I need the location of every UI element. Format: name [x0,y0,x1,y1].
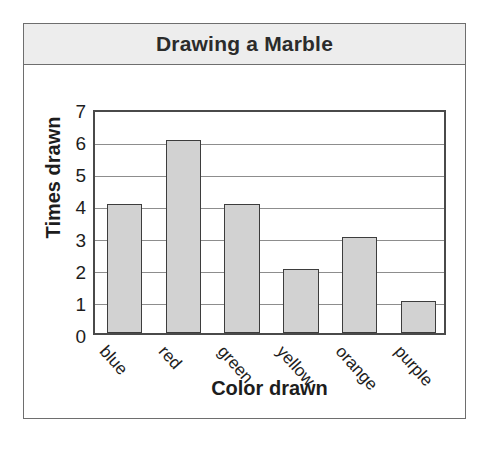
y-tick-label: 3 [75,230,86,252]
bar-orange [342,237,377,333]
y-tick-label: 4 [75,197,86,219]
chart-body: Times drawn 76543210blueredgreenyellowor… [24,65,465,420]
x-tick-label-red: red [154,342,185,374]
x-tick-label-blue: blue [96,342,132,379]
bar-red [166,140,201,333]
gridline [95,144,444,145]
page-title: Drawing a Marble [156,32,333,56]
gridline [95,304,444,305]
gridline [95,208,444,209]
x-axis-title: Color drawn [93,377,446,400]
y-axis-title: Times drawn [42,88,65,268]
bar-green [224,204,259,333]
y-tick-label: 7 [75,101,86,123]
y-tick-label: 2 [75,262,86,284]
gridline [95,272,444,273]
y-tick-label: 0 [75,326,86,348]
y-tick-label: 6 [75,133,86,155]
gridline [95,176,444,177]
bar-purple [401,301,436,333]
chart-title-band: Drawing a Marble [24,24,465,65]
plot-area: 76543210blueredgreenyelloworangepurple [93,110,446,335]
gridline [95,240,444,241]
y-tick-label: 1 [75,294,86,316]
bar-yellow [283,269,318,333]
y-tick-label: 5 [75,165,86,187]
plot-inner: 76543210blueredgreenyelloworangepurple [95,112,444,333]
chart-card: Drawing a Marble Times drawn 76543210blu… [23,23,466,419]
bar-blue [107,204,142,333]
